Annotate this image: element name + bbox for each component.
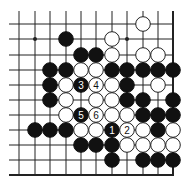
- black-stone-move-5: 5: [74, 108, 89, 123]
- go-board: 345612: [0, 0, 191, 184]
- move-number-label: 1: [109, 125, 115, 136]
- white-stone: [136, 123, 151, 138]
- white-stone: [136, 17, 151, 32]
- stone-disc: [166, 138, 181, 153]
- stone-disc: [151, 63, 166, 78]
- white-stone-move-6: 6: [89, 108, 104, 123]
- black-stone: [136, 63, 151, 78]
- black-stone: [120, 78, 135, 93]
- move-number-label: 5: [78, 110, 84, 121]
- black-stone: [166, 93, 181, 108]
- move-number-label: 2: [124, 125, 130, 136]
- black-stone-move-3: 3: [74, 78, 89, 93]
- stone-disc: [136, 93, 151, 108]
- stone-disc: [166, 63, 181, 78]
- stone-disc: [166, 153, 181, 168]
- black-stone: [59, 63, 74, 78]
- white-stone: [89, 123, 104, 138]
- stone-disc: [89, 63, 104, 78]
- move-number-label: 6: [93, 110, 99, 121]
- white-stone: [105, 93, 120, 108]
- black-stone: [89, 48, 104, 63]
- black-stone: [74, 138, 89, 153]
- stone-disc: [166, 123, 181, 138]
- stone-disc: [59, 93, 74, 108]
- white-stone: [89, 93, 104, 108]
- stone-disc: [59, 123, 74, 138]
- white-stone: [59, 108, 74, 123]
- stone-disc: [105, 138, 120, 153]
- stone-disc: [59, 32, 74, 47]
- black-stone: [120, 63, 135, 78]
- stone-disc: [59, 108, 74, 123]
- stone-disc: [120, 108, 135, 123]
- stone-disc: [59, 78, 74, 93]
- stone-disc: [120, 138, 135, 153]
- black-stone-move-1: 1: [105, 123, 120, 138]
- white-stone-move-2: 2: [120, 123, 135, 138]
- white-stone: [74, 63, 89, 78]
- black-stone: [43, 93, 58, 108]
- stone-disc: [105, 78, 120, 93]
- white-stone: [151, 48, 166, 63]
- stone-disc: [74, 123, 89, 138]
- black-stone: [43, 63, 58, 78]
- white-stone: [105, 78, 120, 93]
- stone-disc: [89, 123, 104, 138]
- stone-disc: [74, 63, 89, 78]
- black-stone: [136, 153, 151, 168]
- black-stone: [105, 63, 120, 78]
- white-stone: [151, 138, 166, 153]
- black-stone: [136, 108, 151, 123]
- stone-disc: [136, 63, 151, 78]
- stone-disc: [89, 93, 104, 108]
- stone-disc: [89, 138, 104, 153]
- stone-disc: [74, 138, 89, 153]
- stone-disc: [136, 123, 151, 138]
- black-stone: [151, 108, 166, 123]
- stone-disc: [43, 78, 58, 93]
- stone-disc: [166, 93, 181, 108]
- stone-disc: [105, 93, 120, 108]
- stone-disc: [105, 153, 120, 168]
- stone-disc: [89, 48, 104, 63]
- stone-disc: [166, 108, 181, 123]
- white-stone: [89, 63, 104, 78]
- black-stone: [136, 93, 151, 108]
- stone-disc: [105, 63, 120, 78]
- black-stone: [43, 78, 58, 93]
- stone-disc: [120, 63, 135, 78]
- stone-disc: [151, 138, 166, 153]
- stone-disc: [120, 93, 135, 108]
- stone-disc: [136, 153, 151, 168]
- black-stone: [151, 153, 166, 168]
- white-stone: [105, 48, 120, 63]
- stone-disc: [136, 138, 151, 153]
- white-stone: [59, 78, 74, 93]
- stone-disc: [120, 78, 135, 93]
- white-stone: [136, 138, 151, 153]
- black-stone: [105, 153, 120, 168]
- stone-disc: [151, 108, 166, 123]
- stone-disc: [28, 123, 43, 138]
- black-stone: [166, 108, 181, 123]
- stone-disc: [105, 108, 120, 123]
- black-stone: [166, 63, 181, 78]
- white-stone: [120, 138, 135, 153]
- black-stone: [43, 123, 58, 138]
- white-stone: [74, 123, 89, 138]
- stone-disc: [151, 48, 166, 63]
- star-point: [33, 37, 37, 41]
- move-number-label: 4: [93, 80, 99, 91]
- stone-disc: [59, 63, 74, 78]
- white-stone: [59, 93, 74, 108]
- white-stone: [151, 78, 166, 93]
- black-stone: [28, 123, 43, 138]
- stone-disc: [43, 123, 58, 138]
- white-stone: [166, 138, 181, 153]
- black-stone: [166, 153, 181, 168]
- white-stone: [166, 123, 181, 138]
- black-stone: [59, 32, 74, 47]
- black-stone: [105, 138, 120, 153]
- stone-disc: [136, 108, 151, 123]
